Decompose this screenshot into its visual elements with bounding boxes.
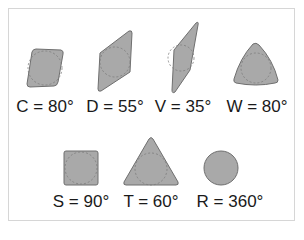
label-d: D = 55°: [86, 98, 143, 115]
label-t: T = 60°: [123, 193, 178, 210]
shape-v-rhombic-35-icon: [168, 22, 198, 92]
shape-r-round-icon: [204, 151, 238, 185]
label-r: R = 360°: [197, 193, 264, 210]
label-w: W = 80°: [226, 98, 287, 115]
label-v: V = 35°: [155, 98, 211, 115]
label-s: S = 90°: [53, 193, 109, 210]
shape-d-rhombic-55-icon: [98, 31, 132, 92]
shape-s-square-icon: [64, 151, 98, 185]
shape-w-trigon-80-icon: [234, 43, 278, 85]
shape-t-triangle-icon: [124, 138, 179, 186]
shape-c-rhombic-80-icon: [27, 49, 63, 87]
label-c: C = 80°: [16, 98, 73, 115]
